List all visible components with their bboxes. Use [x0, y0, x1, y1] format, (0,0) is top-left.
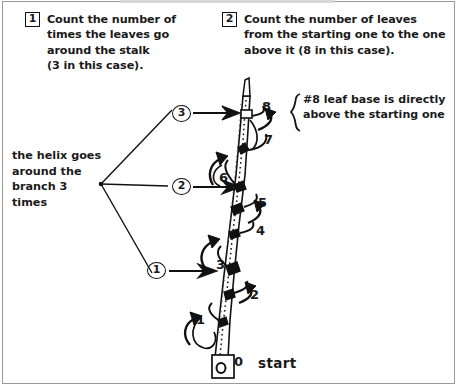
leaf-number-4: 4	[256, 224, 265, 237]
leader-line-to-1	[101, 184, 152, 273]
plant-stalk	[212, 78, 250, 378]
petiole-5	[244, 194, 257, 207]
stalk-stipple-secondary	[219, 104, 241, 336]
stalk-base-block	[212, 355, 234, 378]
step-2-text: Count the number of leaves from the star…	[244, 12, 458, 58]
start-label: start	[258, 355, 297, 371]
step-2-number: 2	[222, 12, 237, 27]
leaf-base-1	[218, 317, 228, 327]
leader-line-to-2	[101, 184, 168, 186]
leader-lines	[101, 110, 172, 273]
cutoff-title-strip	[120, 0, 335, 3]
leaf-number-3: 3	[216, 258, 225, 271]
pointer-arrow-3	[193, 106, 240, 120]
circled-marker-1: 1	[147, 262, 166, 279]
figure-canvas: 1 Count the number of times the leaves g…	[0, 0, 458, 387]
circled-marker-2: 2	[172, 178, 191, 195]
helix-loop-right	[250, 120, 257, 150]
brace-note-text: #8 leaf base is directly above the start…	[303, 92, 455, 122]
curly-brace	[291, 94, 300, 131]
pointer-arrow-2	[193, 180, 241, 194]
stalk-dotted-centerline	[220, 100, 246, 356]
leaf-number-5: 5	[258, 196, 267, 209]
pointer-arrow-1	[169, 264, 217, 278]
stalk-outline	[215, 96, 250, 358]
stalk-base-node	[217, 363, 226, 373]
step-1-text: Count the number of times the leaves go …	[47, 12, 212, 74]
leaf-bases	[218, 110, 252, 327]
helix-note-text: the helix goes around the branch 3 times	[12, 148, 104, 210]
leaf-base-4	[229, 229, 240, 239]
petiole-1	[209, 303, 220, 321]
leader-line-to-3	[101, 110, 172, 184]
leaf-base-6	[234, 181, 246, 192]
leaf-number-2: 2	[250, 288, 259, 301]
leaf-base-7	[238, 143, 249, 154]
leaf-base-3	[226, 262, 240, 275]
step-1-number: 1	[25, 12, 40, 27]
petiole-2	[234, 281, 247, 293]
leaf-number-0: 0	[234, 355, 243, 368]
leaf-base-5	[231, 203, 244, 215]
leaf-number-7: 7	[264, 133, 273, 146]
leaf-number-6: 6	[219, 171, 228, 184]
leaf-number-1: 1	[196, 313, 205, 326]
curly-brace-path	[291, 94, 300, 131]
leaf-base-2	[224, 289, 235, 300]
leaf-number-8: 8	[262, 100, 271, 113]
stalk-tip	[243, 78, 250, 96]
petiole-4	[240, 222, 253, 233]
leaf-base-8	[241, 110, 252, 118]
circled-marker-3: 3	[172, 105, 191, 122]
